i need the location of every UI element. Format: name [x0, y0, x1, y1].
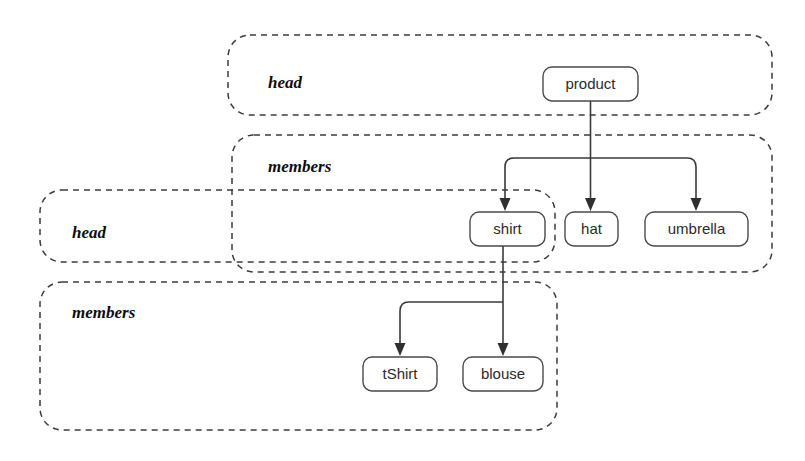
node-blouse[interactable]: blouse [463, 357, 543, 391]
edge-product-to-shirt [500, 101, 591, 211]
node-product[interactable]: product [543, 67, 638, 101]
edge-shirt-to-tShirt [395, 302, 504, 356]
edge-shirt-to-tShirt-arrowhead [395, 343, 406, 356]
group-head-outer-label: head [268, 73, 303, 92]
diagram-svg: head members head members [0, 0, 805, 461]
group-head-outer: head [228, 35, 772, 115]
node-hat-label: hat [581, 220, 603, 237]
node-blouse-label: blouse [481, 365, 525, 382]
edge-product-to-hat [585, 158, 596, 211]
node-shirt-label: shirt [493, 220, 522, 237]
node-umbrella[interactable]: umbrella [645, 212, 748, 246]
edge-product-to-umbrella-path [591, 158, 697, 200]
edge-product-to-shirt-path [505, 158, 591, 200]
edge-product-to-umbrella [591, 158, 702, 211]
edge-shirt-to-blouse [498, 246, 509, 356]
edge-product-to-hat-arrowhead [585, 198, 596, 211]
node-shirt[interactable]: shirt [470, 212, 545, 246]
edge-shirt-to-tShirt-path [400, 302, 503, 345]
node-product-label: product [565, 75, 616, 92]
edge-product-to-umbrella-arrowhead [691, 198, 702, 211]
node-tshirt-label: tShirt [382, 365, 418, 382]
diagram-canvas: head members head members [0, 0, 805, 461]
group-head-outer-rect [228, 35, 772, 115]
group-head-inner-label: head [72, 223, 107, 242]
group-members-inner-label: members [72, 303, 136, 322]
node-tshirt[interactable]: tShirt [363, 357, 437, 391]
node-hat[interactable]: hat [565, 212, 618, 246]
group-members-outer-label: members [268, 157, 332, 176]
edge-shirt-to-blouse-arrowhead [498, 343, 509, 356]
group-members-inner: members [40, 282, 557, 430]
edge-product-to-shirt-arrowhead [500, 198, 511, 211]
node-umbrella-label: umbrella [668, 220, 726, 237]
